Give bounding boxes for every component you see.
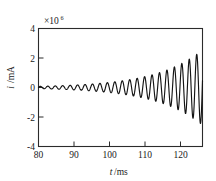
x-tick-label-80: 80 [34, 150, 44, 160]
y-axis-scale-exponent: ×10 6 [44, 14, 64, 27]
waveform-chart: 4 2 0 -2 -4 80 90 100 110 120 ×10 6 i /m… [0, 0, 216, 181]
x-tick-label-90: 90 [69, 150, 79, 160]
waveform-trace [39, 54, 203, 123]
y-axis-title: i /mA [6, 66, 16, 89]
y-tick-label-neg2: -2 [27, 113, 35, 123]
x-axis-title-unit: /ms [114, 167, 128, 177]
x-axis-title: t /ms [110, 167, 128, 177]
y-tick-label-0: 0 [30, 83, 35, 93]
x-tick-label-110: 110 [138, 150, 152, 160]
x-tick-label-120: 120 [173, 150, 188, 160]
y-axis-scale-power: 6 [61, 14, 64, 21]
x-axis-title-var: t [110, 167, 113, 177]
figure-container: 4 2 0 -2 -4 80 90 100 110 120 ×10 6 i /m… [0, 0, 216, 181]
x-tick-label-100: 100 [102, 150, 117, 160]
y-axis-title-var: i [6, 86, 16, 89]
y-axis-scale-base: ×10 [44, 16, 59, 26]
y-tick-label-2: 2 [30, 54, 35, 64]
y-tick-label-4: 4 [30, 24, 35, 34]
x-axis-tickmarks [39, 142, 181, 147]
y-axis-title-unit: /mA [6, 66, 16, 83]
